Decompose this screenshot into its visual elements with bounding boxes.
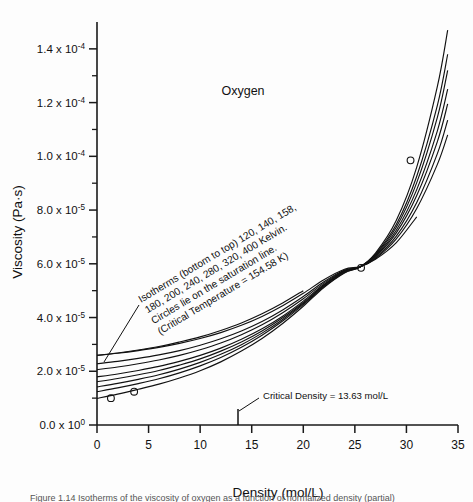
x-tick-label: 25	[348, 438, 362, 452]
figure-caption: Figure 1.14 Isotherms of the viscosity o…	[30, 493, 395, 502]
x-tick-label: 20	[297, 438, 311, 452]
y-axis-label: Viscosity (Pa·s)	[10, 185, 25, 279]
viscosity-density-chart: 0.0 x 1002.0 x 10-54.0 x 10-56.0 x 10-58…	[0, 0, 473, 502]
x-tick-label: 10	[193, 438, 207, 452]
x-tick-label: 15	[245, 438, 259, 452]
critical-density-label: Critical Density = 13.63 mol/L	[263, 390, 389, 401]
figure-container: 0.0 x 1002.0 x 10-54.0 x 10-56.0 x 10-58…	[0, 0, 473, 502]
x-tick-label: 30	[400, 438, 414, 452]
y-tick-label: 0.0 x 100	[40, 418, 86, 432]
x-tick-label: 5	[145, 438, 152, 452]
x-tick-label: 0	[94, 438, 101, 452]
plot-title: Oxygen	[221, 84, 264, 98]
x-tick-label: 35	[451, 438, 465, 452]
